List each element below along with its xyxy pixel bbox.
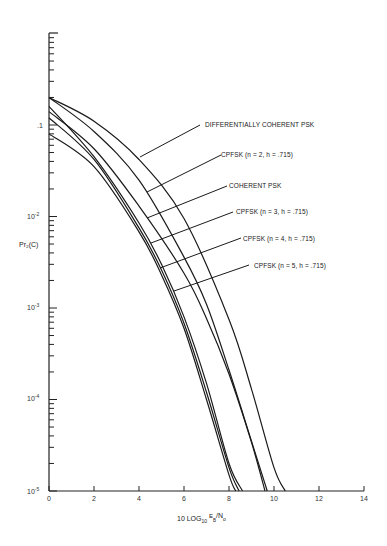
x-axis-title: 10 LOG10EB/No	[177, 512, 226, 524]
x-tick-label: 2	[92, 495, 96, 502]
y-tick-labels: .1 10-2 10-3 10-4 10-5	[27, 122, 43, 495]
curve-2	[49, 112, 265, 491]
curve-labels: DIFFERENTIALLY COHERENT PSK CPFSK (n = 2…	[205, 121, 326, 270]
label-cpfsk-n4: CPFSK (n = 4, h = .715)	[243, 235, 315, 243]
chart: .1 10-2 10-3 10-4 10-5 Pr₂(C) 0246810121…	[0, 0, 387, 546]
y-minor-ticks	[49, 38, 57, 491]
curve-5	[49, 134, 236, 491]
label-cpfsk-n5: CPFSK (n = 5, h = .715)	[254, 262, 326, 270]
x-tick-label: 6	[182, 495, 186, 502]
x-tick-label: 0	[47, 495, 51, 502]
y-tick-label-1e-5: 10-5	[27, 486, 39, 495]
x-tick-label: 8	[227, 495, 231, 502]
y-tick-label-0.1: .1	[37, 122, 43, 129]
label-cpfsk-n2: CPFSK (n = 2, h = .715)	[221, 151, 293, 159]
x-tick-label: 12	[315, 495, 323, 502]
curve-4	[49, 118, 239, 491]
label-differentially-coherent-psk: DIFFERENTIALLY COHERENT PSK	[205, 121, 315, 128]
curve-3	[49, 106, 243, 491]
x-tick-label: 14	[360, 495, 368, 502]
x-ticks	[49, 486, 364, 491]
y-tick-label-1e-4: 10-4	[27, 393, 39, 402]
y-tick-label-1e-3: 10-3	[27, 302, 39, 311]
x-tick-label: 10	[270, 495, 278, 502]
label-cpfsk-n3: CPFSK (n = 3, h = .715)	[236, 208, 308, 216]
y-tick-label-1e-2: 10-2	[27, 211, 39, 220]
x-tick-label: 4	[137, 495, 141, 502]
y-axis-title: Pr₂(C)	[19, 241, 38, 249]
label-coherent-psk: COHERENT PSK	[229, 182, 282, 189]
x-tick-labels: 02468101214	[47, 495, 368, 502]
